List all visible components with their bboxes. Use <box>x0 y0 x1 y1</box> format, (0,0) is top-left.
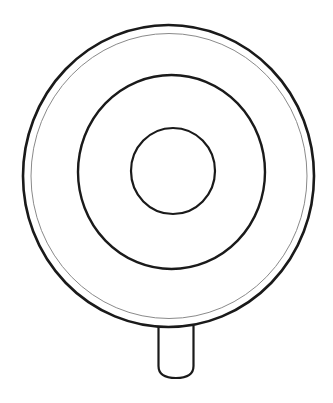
lollipop-drawing <box>0 0 333 403</box>
lollipop-stick <box>159 326 194 378</box>
candy-outer-ring <box>23 25 314 327</box>
